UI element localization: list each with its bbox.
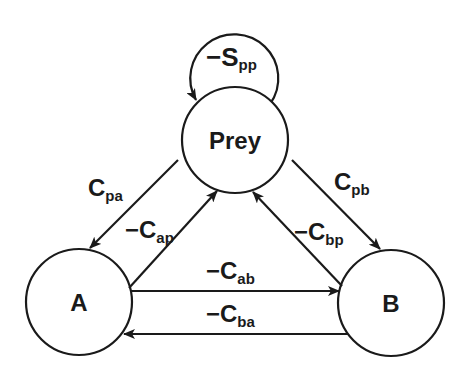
label-cab: −Cab [206,257,255,287]
b-label: B [382,290,399,317]
node-prey: Prey [182,87,288,193]
a-label: A [70,289,87,316]
food-web-diagram: Prey A B −Spp Cpa −Cap Cpb −Cbp −Cab −Cb… [0,0,464,378]
label-cba: −Cba [206,300,256,330]
node-a: A [26,249,132,355]
label-cap: −Cap [125,216,174,246]
label-cpa: Cpa [88,174,124,204]
label-cpb: Cpb [334,168,370,198]
prey-label: Prey [209,127,262,154]
label-cbp: −Cbp [294,218,344,248]
label-spp: −Spp [206,42,257,73]
node-b: B [338,250,444,356]
